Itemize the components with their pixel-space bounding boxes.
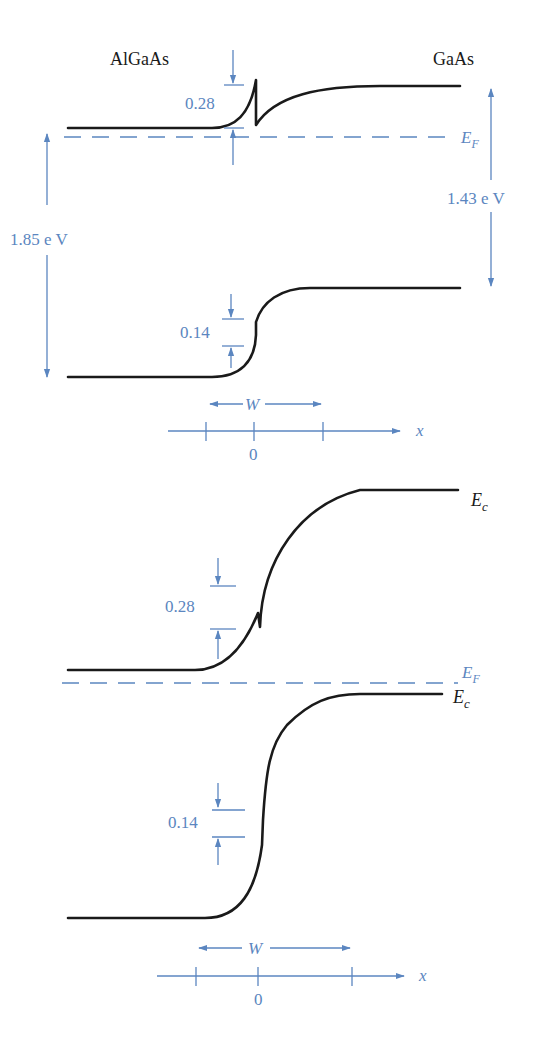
axis-origin-label: 0 [249, 445, 258, 464]
band-diagram: AlGaAs GaAs EF 0.28 1.85 e V 1.43 e V 0.… [0, 0, 544, 1054]
width-label: W [245, 395, 261, 414]
valence-band-top [68, 288, 460, 377]
valence-offset-label: 0.14 [168, 813, 198, 832]
material-label-gaas: GaAs [433, 49, 474, 69]
bandgap-label-algaas: 1.85 e V [10, 230, 68, 249]
width-label: W [248, 939, 264, 958]
conduction-label-bottom-2: Ec [452, 687, 470, 711]
conduction-offset-label: 0.28 [185, 94, 215, 113]
material-label-algaas: AlGaAs [110, 49, 169, 69]
conduction-band-bottom [68, 490, 458, 670]
conduction-label-bottom: Ec [470, 490, 488, 514]
x-axis-label: x [418, 966, 427, 985]
bandgap-label-gaas: 1.43 e V [447, 189, 505, 208]
fermi-label-top: EF [460, 128, 479, 151]
x-axis-label: x [415, 421, 424, 440]
valence-offset-label: 0.14 [180, 323, 210, 342]
conduction-band-top [68, 80, 460, 128]
axis-origin-label: 0 [254, 990, 263, 1009]
conduction-offset-label: 0.28 [165, 597, 195, 616]
fermi-label-bottom: EF [461, 663, 480, 686]
valence-band-bottom [68, 694, 442, 918]
